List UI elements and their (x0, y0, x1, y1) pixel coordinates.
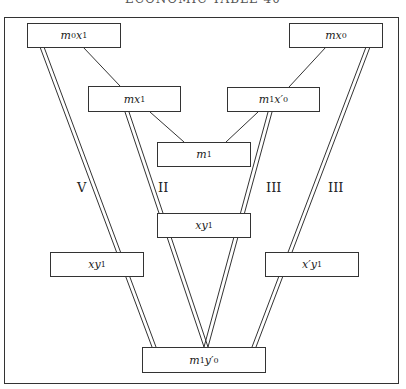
box-mx0: mx0 (289, 23, 383, 48)
connector-lines (0, 0, 406, 389)
box-m1xp0: m1x′0 (227, 87, 320, 112)
box-mx1: mx1 (88, 86, 181, 112)
label-V: V (77, 180, 86, 195)
box-xy1-center: xy1 (157, 213, 251, 238)
label-II: II (158, 180, 168, 195)
box-xy1-left: xy1 (50, 252, 144, 277)
box-m0x1: m0x1 (27, 23, 121, 48)
box-m1: m1 (157, 142, 251, 167)
box-xpy1: x′y1 (265, 252, 359, 277)
label-III-outer: III (328, 180, 343, 195)
box-m1yp0: m1y′0 (142, 347, 266, 373)
label-III-inner: III (266, 180, 281, 195)
